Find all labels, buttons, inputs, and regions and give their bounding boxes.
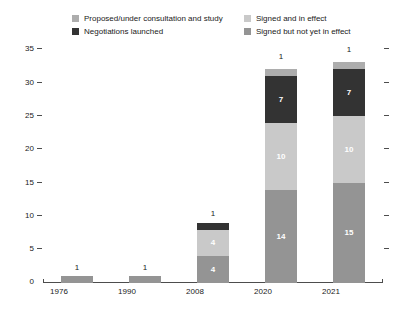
y-tick-right-5: [384, 248, 389, 249]
y-tick-label-30: 30: [6, 79, 34, 87]
y-tick-label-20: 20: [6, 145, 34, 153]
plot-area: 35 30 25 20 15 10 5 0 1 1: [43, 40, 383, 283]
legend-swatch-signed-not-in-effect: [244, 28, 251, 35]
bar-segment-1990-signed-not-in-effect[interactable]: [129, 276, 161, 283]
bar-segment-value-2021-signed-not-in-effect: 15: [345, 229, 354, 237]
y-tick-label-5: 5: [6, 245, 34, 253]
bar-stack-2008: 4 4: [197, 223, 229, 283]
x-tick-label-1976: 1976: [29, 287, 89, 296]
bar-label-2020-proposed: 1: [265, 53, 297, 61]
bar-stack-2021: 7 10 15: [333, 62, 365, 283]
chart-legend: Proposed/under consultation and study Ne…: [72, 14, 392, 40]
bar-segment-value-2020-negotiations-launched: 7: [279, 96, 283, 104]
legend-label-signed-not-in-effect: Signed but not yet in effect: [256, 27, 351, 36]
x-tick-label-2021: 2021: [301, 287, 361, 296]
legend-label-negotiations-launched: Negotiations launched: [84, 27, 163, 36]
legend-item-proposed[interactable]: Proposed/under consultation and study: [72, 14, 223, 23]
legend-swatch-signed-in-effect: [244, 15, 251, 22]
bar-segment-2008-negotiations-launched[interactable]: [197, 223, 229, 230]
y-tick-25: [37, 115, 42, 116]
bar-segment-value-2008-signed-in-effect: 4: [211, 239, 215, 247]
y-tick-20: [37, 148, 42, 149]
y-tick-35: [37, 48, 42, 49]
x-tick-label-1990: 1990: [97, 287, 157, 296]
bar-segment-2021-negotiations-launched[interactable]: 7: [333, 69, 365, 116]
legend-item-signed-in-effect[interactable]: Signed and in effect: [244, 14, 327, 23]
bar-segment-2020-signed-in-effect[interactable]: 10: [265, 123, 297, 190]
legend-item-signed-not-in-effect[interactable]: Signed but not yet in effect: [244, 27, 351, 36]
y-tick-right-15: [384, 182, 389, 183]
y-tick-label-10: 10: [6, 212, 34, 220]
legend-label-proposed: Proposed/under consultation and study: [84, 14, 223, 23]
bar-segment-2020-signed-not-in-effect[interactable]: 14: [265, 190, 297, 283]
bar-segment-1976-signed-not-in-effect[interactable]: [61, 276, 93, 283]
bar-label-2021-proposed: 1: [333, 46, 365, 54]
legend-item-negotiations-launched[interactable]: Negotiations launched: [72, 27, 163, 36]
bar-segment-value-2020-signed-not-in-effect: 14: [277, 233, 286, 241]
bar-stack-1990: [129, 276, 161, 283]
bar-total-label-1990: 1: [129, 264, 161, 272]
y-tick-right-30: [384, 82, 389, 83]
y-tick-10: [37, 215, 42, 216]
x-tick-label-2008: 2008: [165, 287, 225, 296]
bar-label-2008-negotiations-launched: 1: [197, 210, 229, 218]
bar-segment-2020-negotiations-launched[interactable]: 7: [265, 76, 297, 123]
bar-stack-2020: 7 10 14: [265, 69, 297, 283]
y-tick-15: [37, 182, 42, 183]
bar-segment-value-2008-signed-not-in-effect: 4: [211, 266, 215, 274]
y-tick-label-15: 15: [6, 179, 34, 187]
bar-segment-2020-proposed[interactable]: [265, 69, 297, 76]
x-axis-left-cap: [43, 279, 44, 283]
y-tick-right-10: [384, 215, 389, 216]
y-tick-right-35: [384, 48, 389, 49]
y-tick-right-20: [384, 148, 389, 149]
bar-segment-2008-signed-not-in-effect[interactable]: 4: [197, 256, 229, 283]
bar-segment-2021-signed-in-effect[interactable]: 10: [333, 116, 365, 183]
y-tick-label-25: 25: [6, 112, 34, 120]
bar-segment-2008-signed-in-effect[interactable]: 4: [197, 230, 229, 256]
x-axis-right-cap: [382, 279, 383, 283]
bar-segment-value-2021-signed-in-effect: 10: [345, 146, 354, 154]
y-tick-5: [37, 248, 42, 249]
bar-stack-1976: [61, 276, 93, 283]
x-tick-label-2020: 2020: [233, 287, 293, 296]
legend-swatch-proposed: [72, 15, 79, 22]
bar-segment-value-2021-negotiations-launched: 7: [347, 89, 351, 97]
bar-segment-2021-signed-not-in-effect[interactable]: 15: [333, 183, 365, 283]
bar-segment-2021-proposed[interactable]: [333, 62, 365, 69]
legend-swatch-negotiations-launched: [72, 28, 79, 35]
y-tick-label-0: 0: [6, 278, 34, 286]
y-tick-label-35: 35: [6, 45, 34, 53]
y-tick-right-25: [384, 115, 389, 116]
bar-total-label-1976: 1: [61, 264, 93, 272]
legend-label-signed-in-effect: Signed and in effect: [256, 14, 327, 23]
bar-segment-value-2020-signed-in-effect: 10: [277, 153, 286, 161]
y-tick-30: [37, 82, 42, 83]
stacked-bar-chart: Proposed/under consultation and study Ne…: [0, 0, 405, 310]
